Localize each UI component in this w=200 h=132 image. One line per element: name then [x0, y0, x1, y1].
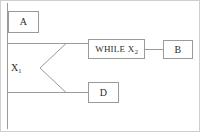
fork-chevron	[40, 44, 66, 93]
node-label-a: A	[20, 17, 27, 27]
trunk-label-x1-subscript: 1	[18, 67, 21, 74]
node-label-while: WHILE X2	[95, 45, 138, 54]
diagram-canvas: A WHILE X2 B D X1	[0, 0, 200, 132]
node-label-b: B	[175, 45, 182, 55]
node-box-while[interactable]: WHILE X2	[88, 39, 145, 59]
node-label-while-subscript: 2	[135, 48, 138, 55]
node-label-d: D	[100, 88, 107, 98]
node-box-b[interactable]: B	[163, 40, 193, 59]
trunk-label-x1: X1	[11, 63, 21, 73]
node-box-a[interactable]: A	[8, 11, 39, 33]
node-label-while-text: WHILE X	[95, 44, 134, 54]
node-box-d[interactable]: D	[88, 82, 119, 103]
